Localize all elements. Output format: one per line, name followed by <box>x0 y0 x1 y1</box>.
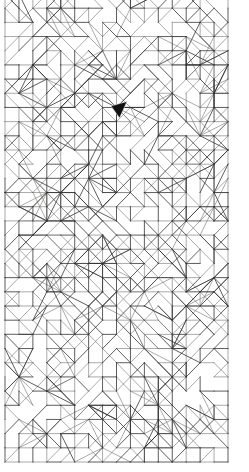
triangulated-mesh <box>0 0 249 472</box>
mesh-canvas <box>0 0 249 472</box>
